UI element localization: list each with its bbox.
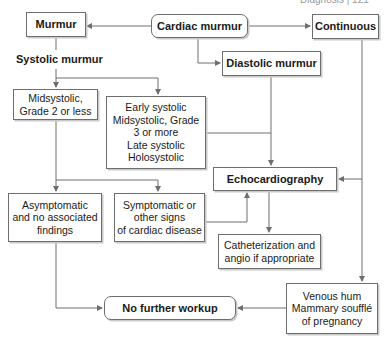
- early-systolic-group-node: Early systolic Midsystolic, Grade 3 or m…: [106, 96, 206, 169]
- asymptomatic-node: Asymptomatic and no associated findings: [8, 193, 102, 242]
- no-further-workup-node: No further workup: [104, 296, 236, 320]
- diastolic-murmur-node: Diastolic murmur: [222, 51, 321, 76]
- symptomatic-node: Symptomatic or other signs of cardiac di…: [114, 193, 205, 242]
- venous-hum-node: Venous hum Mammary soufflé of pregnancy: [286, 283, 378, 334]
- systolic-murmur-label: Systolic murmur: [16, 53, 103, 65]
- cardiac-murmur-node: Cardiac murmur: [151, 14, 248, 38]
- continuous-node: Continuous: [312, 14, 379, 39]
- echocardiography-node: Echocardiography: [213, 167, 337, 191]
- murmur-node: Murmur: [26, 12, 86, 37]
- catheterization-node: Catheterization and angio if appropriate: [218, 234, 321, 269]
- midsystolic-grade2-node: Midsystolic, Grade 2 or less: [13, 89, 98, 120]
